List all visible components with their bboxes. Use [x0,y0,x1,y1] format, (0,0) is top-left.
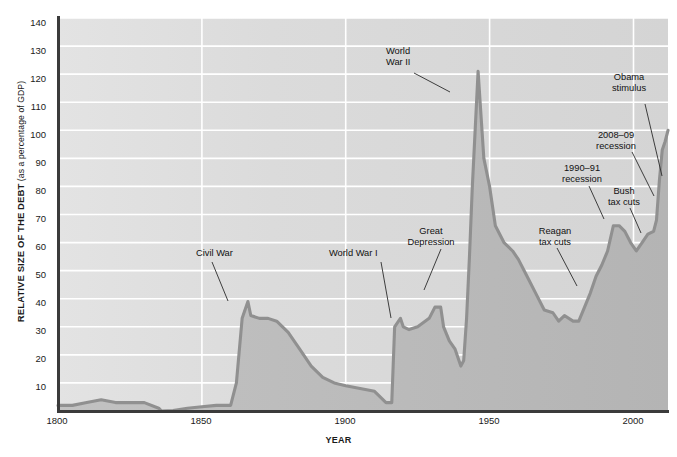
annotation-great-depression: Great Depression [396,226,466,248]
annotation-reagan-tax-cuts: Reagan tax cuts [518,226,592,248]
annotation-bush-tax-cuts: Bush tax cuts [596,186,652,208]
annotation-civil-war: Civil War [196,248,233,259]
annotation-recession-2008-09: 2008–09 recession [578,130,654,152]
annotation-recession-1990-91: 1990–91 recession [544,163,620,185]
annotation-world-war-ii: World War II [386,46,410,68]
annotation-world-war-i: World War I [329,248,378,259]
chart-figure: RELATIVE SIZE OF THE DEBT (as a percenta… [0,0,677,457]
annotation-obama-stimulus: Obama stimulus [594,72,664,94]
